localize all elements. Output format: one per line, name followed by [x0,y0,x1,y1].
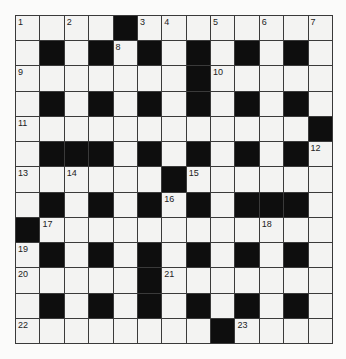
grid-cell[interactable] [260,294,283,318]
grid-cell[interactable] [235,66,258,90]
grid-cell[interactable] [65,92,88,116]
grid-cell[interactable] [162,92,185,116]
grid-cell[interactable] [211,218,234,242]
grid-cell[interactable]: 8 [114,41,137,65]
grid-cell[interactable] [284,16,307,40]
grid-cell[interactable] [114,268,137,292]
grid-cell[interactable] [284,218,307,242]
grid-cell[interactable]: 15 [187,167,210,191]
grid-cell[interactable] [89,268,112,292]
grid-cell[interactable]: 14 [65,167,88,191]
grid-cell[interactable] [309,268,332,292]
grid-cell[interactable] [211,117,234,141]
grid-cell[interactable] [16,294,39,318]
grid-cell[interactable]: 13 [16,167,39,191]
grid-cell[interactable] [211,92,234,116]
grid-cell[interactable] [162,117,185,141]
grid-cell[interactable] [211,193,234,217]
grid-cell[interactable] [260,167,283,191]
grid-cell[interactable] [260,319,283,343]
grid-cell[interactable] [89,117,112,141]
grid-cell[interactable] [138,218,161,242]
grid-cell[interactable] [187,218,210,242]
grid-cell[interactable] [40,167,63,191]
grid-cell[interactable]: 21 [162,268,185,292]
grid-cell[interactable] [89,16,112,40]
grid-cell[interactable] [211,167,234,191]
grid-cell[interactable] [260,142,283,166]
grid-cell[interactable] [284,268,307,292]
grid-cell[interactable] [40,66,63,90]
grid-cell[interactable] [235,167,258,191]
grid-cell[interactable] [309,92,332,116]
grid-cell[interactable] [211,142,234,166]
grid-cell[interactable] [65,268,88,292]
grid-cell[interactable] [138,319,161,343]
grid-cell[interactable] [162,142,185,166]
grid-cell[interactable]: 18 [260,218,283,242]
grid-cell[interactable] [284,167,307,191]
grid-cell[interactable] [16,92,39,116]
grid-cell[interactable] [260,66,283,90]
grid-cell[interactable] [309,66,332,90]
grid-cell[interactable] [162,41,185,65]
grid-cell[interactable] [309,41,332,65]
grid-cell[interactable] [260,41,283,65]
grid-cell[interactable] [65,66,88,90]
grid-cell[interactable]: 7 [309,16,332,40]
grid-cell[interactable] [187,117,210,141]
grid-cell[interactable] [114,117,137,141]
grid-cell[interactable] [211,41,234,65]
grid-cell[interactable] [65,294,88,318]
grid-cell[interactable] [65,193,88,217]
grid-cell[interactable] [162,319,185,343]
grid-cell[interactable]: 12 [309,142,332,166]
grid-cell[interactable] [114,294,137,318]
grid-cell[interactable]: 5 [211,16,234,40]
grid-cell[interactable] [162,294,185,318]
grid-cell[interactable] [89,66,112,90]
grid-cell[interactable] [114,319,137,343]
grid-cell[interactable] [40,117,63,141]
grid-cell[interactable] [309,193,332,217]
grid-cell[interactable] [284,319,307,343]
grid-cell[interactable] [309,167,332,191]
grid-cell[interactable] [309,218,332,242]
grid-cell[interactable] [89,218,112,242]
grid-cell[interactable] [65,319,88,343]
grid-cell[interactable] [284,66,307,90]
grid-cell[interactable] [260,92,283,116]
grid-cell[interactable] [260,243,283,267]
grid-cell[interactable]: 2 [65,16,88,40]
grid-cell[interactable] [138,117,161,141]
grid-cell[interactable] [40,268,63,292]
grid-cell[interactable]: 3 [138,16,161,40]
grid-cell[interactable]: 23 [235,319,258,343]
grid-cell[interactable] [211,294,234,318]
grid-cell[interactable] [114,92,137,116]
grid-cell[interactable] [16,193,39,217]
grid-cell[interactable]: 17 [40,218,63,242]
grid-cell[interactable] [114,218,137,242]
grid-cell[interactable] [114,142,137,166]
grid-cell[interactable] [187,16,210,40]
grid-cell[interactable]: 19 [16,243,39,267]
grid-cell[interactable] [162,243,185,267]
grid-cell[interactable] [309,319,332,343]
grid-cell[interactable] [89,319,112,343]
grid-cell[interactable]: 9 [16,66,39,90]
grid-cell[interactable] [114,193,137,217]
grid-cell[interactable] [16,41,39,65]
grid-cell[interactable]: 11 [16,117,39,141]
grid-cell[interactable] [235,16,258,40]
grid-cell[interactable] [187,319,210,343]
grid-cell[interactable]: 16 [162,193,185,217]
grid-cell[interactable] [162,218,185,242]
grid-cell[interactable] [235,117,258,141]
grid-cell[interactable]: 1 [16,16,39,40]
grid-cell[interactable]: 22 [16,319,39,343]
grid-cell[interactable] [235,268,258,292]
grid-cell[interactable]: 20 [16,268,39,292]
grid-cell[interactable] [211,243,234,267]
grid-cell[interactable] [89,167,112,191]
